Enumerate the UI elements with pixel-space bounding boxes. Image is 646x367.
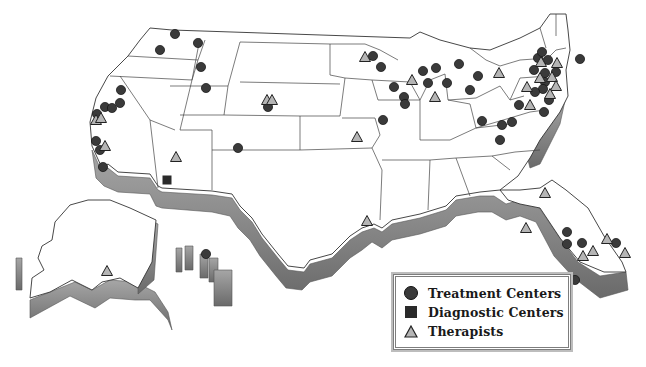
treatment-center-marker (539, 107, 548, 116)
treatment-center-marker (570, 275, 579, 284)
legend-label: Diagnostic Centers (428, 305, 564, 320)
treatment-center-marker (465, 85, 474, 94)
treatment-center-marker (431, 63, 440, 72)
treatment-center-marker (562, 239, 571, 248)
treatment-center-marker (575, 54, 584, 63)
treatment-center-marker (193, 38, 202, 47)
square-icon (405, 306, 417, 318)
treatment-center-marker (400, 99, 409, 108)
circle-icon (404, 286, 418, 300)
treatment-center-marker (537, 47, 546, 56)
diagnostic-center-markers (163, 176, 172, 185)
treatment-center-marker (454, 59, 463, 68)
treatment-center-marker (514, 100, 523, 109)
treatment-center-marker (107, 103, 116, 112)
treatment-center-marker (115, 98, 124, 107)
treatment-center-marker (562, 227, 571, 236)
treatment-center-marker (507, 117, 516, 126)
legend-item-treatment-centers: Treatment Centers (404, 283, 561, 303)
therapist-marker (521, 223, 532, 233)
legend-label: Therapists (428, 324, 503, 339)
diagnostic-center-marker (163, 176, 172, 185)
treatment-center-marker (378, 115, 387, 124)
treatment-center-marker (477, 116, 486, 125)
treatment-center-marker (233, 143, 242, 152)
legend-label: Treatment Centers (428, 286, 561, 301)
alaska-inset (16, 200, 172, 330)
legend-item-diagnostic-centers: Diagnostic Centers (404, 302, 564, 322)
legend-item-therapists: Therapists (404, 321, 503, 341)
treatment-center-marker (497, 120, 506, 129)
treatment-center-marker (442, 78, 451, 87)
triangle-icon (404, 325, 418, 338)
therapist-marker (620, 248, 631, 258)
treatment-center-marker (376, 62, 385, 71)
treatment-center-marker (201, 249, 210, 258)
treatment-center-marker (196, 62, 205, 71)
treatment-center-marker (577, 238, 586, 247)
map-legend: Treatment Centers Diagnostic Centers The… (393, 274, 571, 350)
treatment-center-marker (91, 136, 100, 145)
treatment-center-marker (423, 78, 432, 87)
treatment-center-marker (201, 83, 210, 92)
treatment-center-marker (98, 162, 107, 171)
treatment-center-marker (495, 135, 504, 144)
treatment-center-marker (170, 29, 179, 38)
treatment-center-marker (116, 85, 125, 94)
treatment-center-marker (418, 66, 427, 75)
treatment-center-marker (473, 71, 482, 80)
treatment-center-marker (155, 45, 164, 54)
treatment-center-marker (389, 82, 398, 91)
